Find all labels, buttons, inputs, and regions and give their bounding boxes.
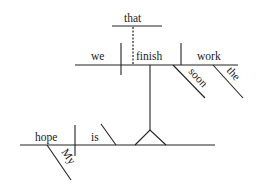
word-we: we xyxy=(91,50,104,62)
word-finish: finish xyxy=(136,50,162,62)
word-is: is xyxy=(91,131,99,143)
word-the: the xyxy=(225,64,243,82)
pedestal xyxy=(135,130,166,145)
word-hope: hope xyxy=(35,131,57,144)
complement-slant-line xyxy=(101,124,116,145)
word-soon: soon xyxy=(187,65,211,89)
sentence-diagram: that we finish work soon the hope is My xyxy=(0,0,256,194)
word-work: work xyxy=(197,50,221,62)
word-that: that xyxy=(124,12,142,24)
